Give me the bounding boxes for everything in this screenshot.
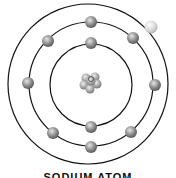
electron: [22, 77, 34, 89]
electron: [47, 127, 59, 139]
valence-electron: [145, 21, 158, 34]
electron: [127, 32, 139, 44]
electron: [85, 16, 97, 28]
nucleus: [80, 73, 102, 94]
electron: [149, 79, 161, 91]
electron: [125, 126, 137, 138]
electron: [85, 141, 97, 153]
electron: [85, 37, 97, 49]
diagram-title: SODIUM ATOM: [0, 171, 176, 178]
electron: [85, 121, 97, 133]
atom-diagram: [0, 0, 176, 178]
electron: [42, 35, 54, 47]
